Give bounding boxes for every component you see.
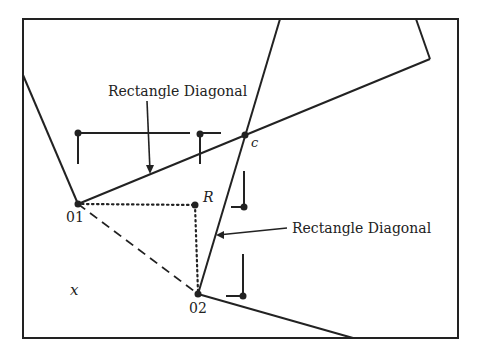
point-o1 bbox=[75, 201, 82, 208]
top-label-leader-line bbox=[147, 101, 150, 171]
steep-diagonal-line bbox=[198, 19, 280, 294]
upper-l-marker-dot bbox=[241, 204, 248, 211]
label-point-c: c bbox=[251, 135, 259, 150]
upper-diagonal-line bbox=[78, 59, 430, 204]
lower-l-marker-dot bbox=[240, 293, 247, 300]
dashed-hypotenuse-line bbox=[78, 204, 198, 294]
bracket-left-dot bbox=[75, 130, 82, 137]
point-o2 bbox=[195, 291, 202, 298]
geometry-diagram: Rectangle Diagonal Rectangle Diagonal 01… bbox=[0, 0, 478, 358]
label-point-r: R bbox=[202, 189, 214, 205]
point-c bbox=[242, 132, 249, 139]
label-rectangle-diagonal-right: Rectangle Diagonal bbox=[292, 220, 432, 236]
point-r bbox=[192, 202, 199, 209]
dotted-horizontal-leg bbox=[82, 204, 195, 205]
label-region-x: x bbox=[70, 281, 79, 299]
bracket-right-dot bbox=[197, 131, 204, 138]
lower-boundary-line bbox=[198, 294, 353, 338]
label-point-o1: 01 bbox=[66, 209, 84, 225]
right-label-leader-line bbox=[218, 228, 287, 235]
upper-right-edge-line bbox=[416, 19, 430, 59]
diagram-frame bbox=[23, 19, 458, 338]
left-boundary-line bbox=[23, 75, 78, 204]
label-rectangle-diagonal-top: Rectangle Diagonal bbox=[108, 83, 248, 99]
label-point-o2: 02 bbox=[189, 300, 207, 316]
dotted-vertical-leg bbox=[195, 205, 198, 292]
